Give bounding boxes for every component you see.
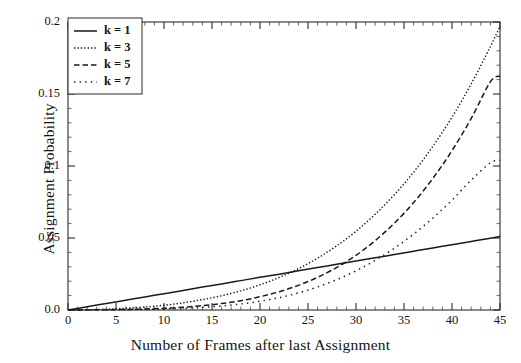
data-series-line-1 [68, 237, 500, 310]
x-tick-label: 20 [240, 313, 280, 328]
legend-label-2: k = 3 [104, 40, 131, 55]
legend-label-3: k = 5 [104, 57, 131, 72]
x-axis-label: Number of Frames after last Assignment [0, 336, 521, 354]
x-tick-label: 15 [192, 313, 232, 328]
x-tick-label: 10 [144, 313, 184, 328]
legend-label-4: k = 7 [104, 74, 131, 89]
plot-canvas [0, 0, 521, 363]
y-tick-label: 0.05 [14, 230, 60, 245]
y-tick-label: 0.1 [14, 158, 60, 173]
x-tick-label: 40 [432, 313, 472, 328]
y-axis-label: Assignment Probability [40, 39, 58, 319]
x-tick-label: 25 [288, 313, 328, 328]
y-tick-label: 0.2 [14, 14, 60, 29]
x-tick-label: 5 [96, 313, 136, 328]
data-series-line-3 [68, 76, 500, 310]
data-series-line-4 [68, 160, 500, 310]
chart-figure: Number of Frames after last Assignment A… [0, 0, 521, 363]
x-tick-label: 30 [336, 313, 376, 328]
x-tick-label: 35 [384, 313, 424, 328]
legend-label-1: k = 1 [104, 23, 131, 38]
y-tick-label: 0.15 [14, 86, 60, 101]
x-tick-label: 45 [480, 313, 520, 328]
y-tick-label: 0.0 [14, 302, 60, 317]
